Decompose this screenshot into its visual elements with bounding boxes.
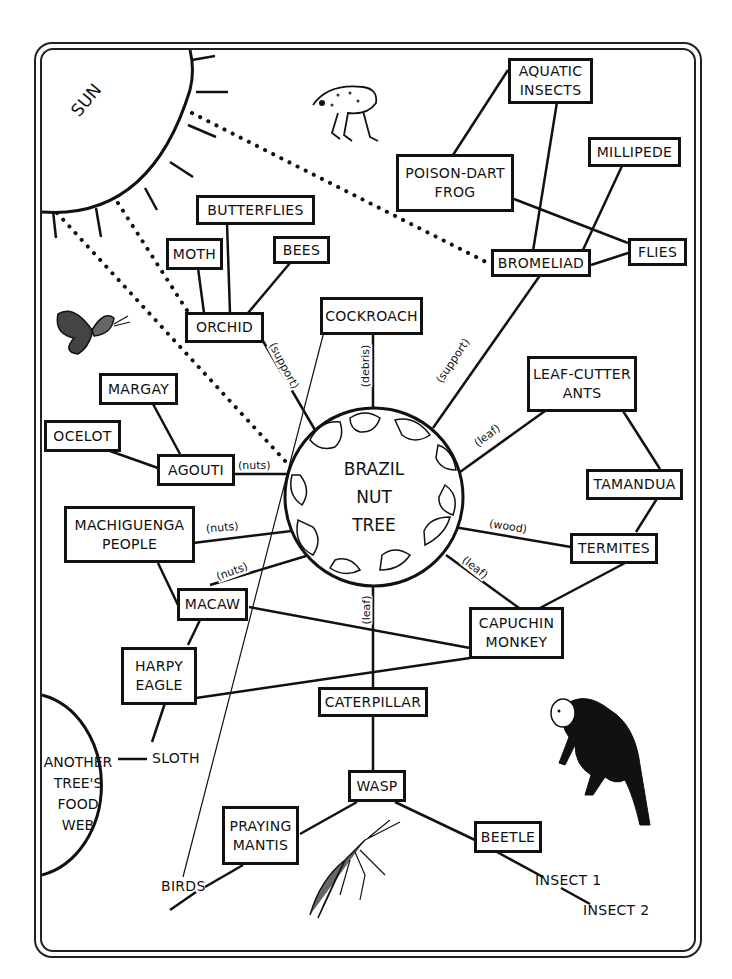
frog-icon [308, 75, 388, 147]
node-machiguenga-people[interactable]: MACHIGUENGA PEOPLE [64, 506, 195, 563]
node-moth[interactable]: MOTH [166, 238, 223, 270]
label-insect-2[interactable]: INSECT 2 [583, 902, 649, 918]
mantis-icon [300, 820, 410, 930]
label-sloth[interactable]: SLOTH [152, 750, 200, 766]
node-praying-mantis[interactable]: PRAYING MANTIS [222, 806, 299, 865]
node-orchid[interactable]: ORCHID [185, 312, 264, 343]
node-poison-dart-frog[interactable]: POISON-DART FROG [396, 154, 514, 212]
monkey-icon [545, 685, 660, 830]
node-tamandua[interactable]: TAMANDUA [586, 469, 683, 500]
another-tree-food-web-label: ANOTHER TREE'S FOOD WEB [40, 752, 116, 836]
edge-label-caterpillar-leaf: (leaf) [361, 595, 373, 624]
node-leaf-cutter-ants[interactable]: LEAF-CUTTER ANTS [527, 356, 637, 412]
node-bees[interactable]: BEES [273, 236, 330, 264]
node-butterflies[interactable]: BUTTERFLIES [196, 195, 315, 225]
node-wasp[interactable]: WASP [348, 770, 406, 802]
butterfly-icon [54, 304, 132, 356]
edge-label-agouti-nuts: (nuts) [238, 460, 271, 472]
node-millipede[interactable]: MILLIPEDE [588, 137, 681, 167]
node-capuchin-monkey[interactable]: CAPUCHIN MONKEY [469, 607, 564, 659]
node-caterpillar[interactable]: CATERPILLAR [318, 687, 428, 717]
node-agouti[interactable]: AGOUTI [157, 454, 235, 486]
node-aquatic-insects[interactable]: AQUATIC INSECTS [508, 58, 593, 104]
node-macaw[interactable]: MACAW [177, 588, 248, 621]
node-flies[interactable]: FLIES [628, 238, 687, 266]
node-margay[interactable]: MARGAY [99, 373, 178, 405]
node-termites[interactable]: TERMITES [570, 533, 658, 564]
label-insect-1[interactable]: INSECT 1 [535, 872, 601, 888]
label-birds[interactable]: BIRDS [161, 878, 206, 894]
node-bromeliad[interactable]: BROMELIAD [491, 249, 591, 277]
node-ocelot[interactable]: OCELOT [44, 420, 121, 452]
node-cockroach[interactable]: COCKROACH [320, 297, 423, 335]
node-beetle[interactable]: BEETLE [474, 821, 542, 853]
edge-label-cockroach-debris: (debris) [360, 345, 372, 388]
node-harpy-eagle[interactable]: HARPY EAGLE [121, 647, 197, 705]
brazil-nut-tree-label: BRAZIL NUT TREE [324, 455, 424, 539]
